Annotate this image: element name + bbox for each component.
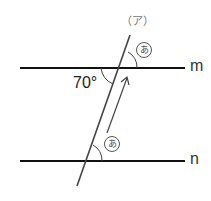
parallel-lines-diagram [0,0,211,201]
line-n-label: n [190,150,199,168]
angle-arc-top [128,52,137,68]
angle-arc-bottom [93,145,102,161]
angle-a-bottom-label: あ [104,136,120,152]
angle-70-label: 70° [73,74,97,92]
transversal-label: （ア） [121,12,154,28]
transversal-line [77,35,130,186]
translation-arrow [107,78,127,133]
angle-a-top-label: あ [136,42,152,58]
line-m-label: m [190,57,203,75]
angle-arc-70 [101,68,113,84]
